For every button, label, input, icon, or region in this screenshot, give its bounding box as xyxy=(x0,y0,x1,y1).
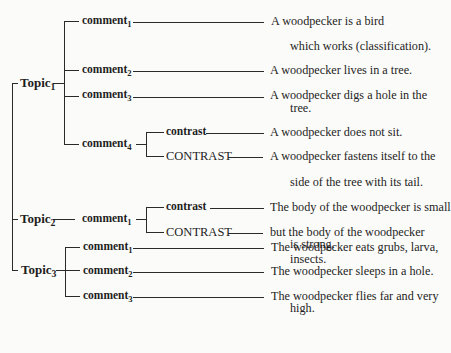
t1-comment2-label: comment2 xyxy=(82,64,132,76)
t1c2-stub xyxy=(64,70,79,71)
t2c1-contrast-stub xyxy=(146,207,164,208)
t1c4-contrast-label: contrast xyxy=(166,126,206,138)
t1c3-stub xyxy=(64,96,79,97)
t3c3-stub xyxy=(65,296,80,297)
t3c2-leader xyxy=(133,272,264,273)
root-spine xyxy=(12,83,13,271)
t1c1-leader xyxy=(133,22,264,23)
t1c1-stub xyxy=(64,21,79,22)
t2c1-contrast-sentence: The body of the woodpecker is small xyxy=(270,201,451,213)
t1c4-branch-spine xyxy=(146,132,147,156)
t1c4-CONTRAST-sentence-line1: A woodpecker fastens itself to the xyxy=(270,150,436,162)
t3c1-leader xyxy=(133,248,264,249)
t1c4-stub xyxy=(64,144,79,145)
t1c4-CONTRAST-label: CONTRAST xyxy=(166,150,232,163)
topic1-tick xyxy=(12,83,18,84)
t2-comment1-label: comment1 xyxy=(82,213,132,225)
t2c1-CONTRAST-label: CONTRAST xyxy=(166,226,232,239)
topic3-tick xyxy=(12,270,18,271)
t1c4-contrast-leader xyxy=(206,133,264,134)
t1c4-CONTRAST-sentence-line2: side of the tree with its tail. xyxy=(290,176,423,188)
t1c1-sentence-line2: which works (classification). xyxy=(290,40,431,52)
t1c4-CONTRAST-stub xyxy=(146,156,164,157)
t2c1-CONTRAST-leader xyxy=(228,233,263,234)
t2c1-contrast-label: contrast xyxy=(166,201,206,213)
t1c4-contrast-sentence: A woodpecker does not sit. xyxy=(270,126,402,138)
t1-comment3-label: comment3 xyxy=(82,89,132,101)
t1c4-contrast-stub xyxy=(146,132,164,133)
t1-comment1-label: comment1 xyxy=(82,15,132,27)
t3c2-sentence: The woodpecker sleeps in a hole. xyxy=(271,265,433,277)
topic1-comment-spine xyxy=(64,21,65,144)
t2c1-branch-spine xyxy=(146,207,147,232)
t2c1-connector xyxy=(136,219,146,220)
t3-comment3-label: comment3 xyxy=(83,290,133,302)
topic1-label: Topic1 xyxy=(20,76,55,89)
t3-comment1-label: comment1 xyxy=(83,241,133,253)
topic3-connector xyxy=(56,270,80,271)
t3c3-leader xyxy=(133,297,264,298)
t1c3-leader xyxy=(133,97,264,98)
t3c3-sentence-line2: high. xyxy=(290,302,315,314)
t3-spine xyxy=(65,247,66,296)
t1c2-leader xyxy=(133,71,264,72)
t2c1-CONTRAST-stub xyxy=(146,232,164,233)
topic2-label: Topic2 xyxy=(20,212,55,225)
t1c4-CONTRAST-leader xyxy=(228,157,263,158)
t1c3-sentence-line1: A woodpecker digs a hole in the xyxy=(270,89,427,101)
t1-comment4-label: comment4 xyxy=(82,138,132,150)
topic3-label: Topic3 xyxy=(21,263,56,276)
topic2-tick xyxy=(12,219,18,220)
topic2-connector xyxy=(53,219,75,220)
t1c2-sentence: A woodpecker lives in a tree. xyxy=(270,64,412,76)
t3-comment2-label: comment2 xyxy=(83,265,133,277)
t2c1-contrast-leader xyxy=(210,208,264,209)
t1c3-sentence-line2: tree. xyxy=(290,102,311,114)
t1c1-sentence-line1: A woodpecker is a bird xyxy=(271,15,384,27)
t1c4-connector xyxy=(136,144,146,145)
t3c1-stub xyxy=(65,247,80,248)
